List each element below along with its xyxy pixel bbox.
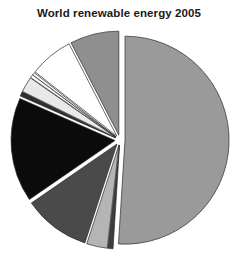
pie-plot-area <box>0 24 238 266</box>
page-title: World renewable energy 2005 <box>0 6 238 20</box>
pie-svg <box>0 24 238 266</box>
pie-slice[interactable] <box>118 36 229 244</box>
pie-slice-group <box>11 31 229 249</box>
pie-chart-figure: World renewable energy 2005 <box>0 0 238 266</box>
